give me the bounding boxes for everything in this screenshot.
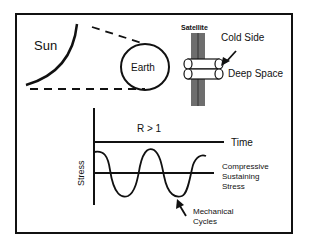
compressive-label-line1: Compressive — [222, 162, 269, 171]
ray-top — [92, 27, 145, 44]
diagram-canvas: Sun Earth Satellite Cold Side Deep Space… — [0, 0, 309, 245]
satellite-icon — [184, 33, 223, 106]
cold-side-label: Cold Side — [221, 32, 265, 43]
compressive-label-line3: Stress — [222, 182, 245, 191]
mechanical-label-line2: Cycles — [193, 217, 217, 226]
cold-side-arrow-icon — [221, 51, 236, 66]
earth-label: Earth — [131, 62, 155, 73]
satellite-label: Satellite — [181, 24, 208, 31]
stress-axis-label: Stress — [76, 160, 86, 186]
mechanical-label-line1: Mechanical — [193, 207, 234, 216]
time-axis-label: Time — [231, 137, 253, 148]
compressive-label-line2: Sustaining — [222, 172, 259, 181]
deep-space-label: Deep Space — [228, 68, 283, 79]
mechanical-cycles-arrow-icon — [176, 199, 186, 216]
sun-arc — [26, 24, 77, 85]
sun-label: Sun — [34, 38, 57, 53]
ratio-label: R > 1 — [137, 123, 162, 134]
